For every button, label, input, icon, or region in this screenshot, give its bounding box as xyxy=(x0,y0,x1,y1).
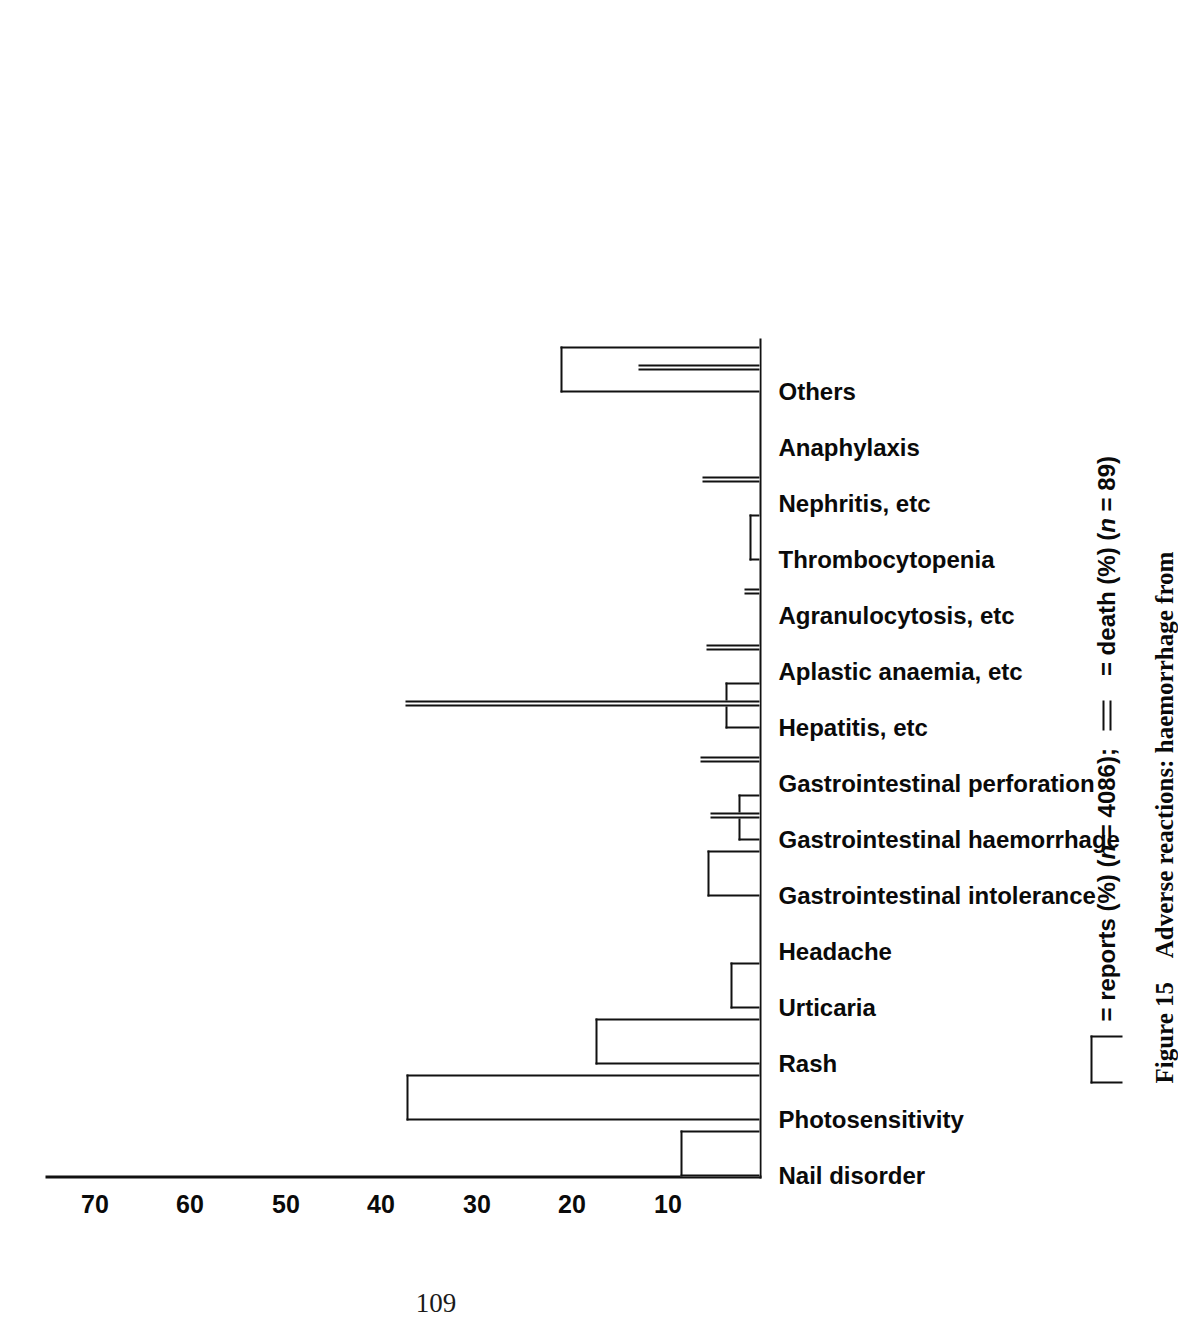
bar-slot xyxy=(45,896,759,952)
bar-slot xyxy=(45,672,759,728)
bar-slot xyxy=(45,784,759,840)
bar-slot xyxy=(45,1064,759,1120)
bar-death xyxy=(638,364,759,370)
category-label: Rash xyxy=(778,1049,837,1077)
bar-group xyxy=(45,338,759,1176)
value-tick-70: 70 xyxy=(80,1189,108,1218)
category-label: Nephritis, etc xyxy=(778,489,930,517)
category-label: Aplastic anaemia, etc xyxy=(778,657,1022,685)
bar-reports xyxy=(680,1130,759,1176)
legend-label-reports: = reports (%) (n = 4086); xyxy=(1092,748,1120,1021)
category-label: Nail disorder xyxy=(778,1161,925,1189)
category-label: Gastrointestinal perforation xyxy=(778,769,1094,797)
bar-death xyxy=(700,756,759,762)
bar-reports xyxy=(595,1018,759,1064)
figure-caption-text: Adverse reactions: haemorrhage from xyxy=(1150,551,1177,958)
value-tick-50: 50 xyxy=(271,1189,299,1218)
bar-slot xyxy=(45,728,759,784)
category-label: Gastrointestinal intolerance xyxy=(778,881,1095,909)
figure-caption-prefix: Figure 15 xyxy=(1150,981,1177,1083)
category-label: Urticaria xyxy=(778,993,875,1021)
category-label: Photosensitivity xyxy=(778,1105,963,1133)
value-tick-10: 10 xyxy=(653,1189,681,1218)
page-number: 109 xyxy=(0,1288,872,1319)
legend-label-death: = death (%) (n = 89) xyxy=(1092,456,1120,676)
legend-swatch-death-icon xyxy=(1102,700,1111,730)
bar-slot xyxy=(45,448,759,504)
value-tick-20: 20 xyxy=(557,1189,585,1218)
legend-swatch-reports-icon xyxy=(1090,1035,1122,1083)
category-label: Hepatitis, etc xyxy=(778,713,927,741)
bar-slot xyxy=(45,504,759,560)
category-label: Others xyxy=(778,377,855,405)
bar-slot xyxy=(45,1008,759,1064)
category-label: Thrombocytopenia xyxy=(778,545,994,573)
bar-reports xyxy=(730,962,759,1008)
value-tick-60: 60 xyxy=(176,1189,204,1218)
category-label: Anaphylaxis xyxy=(778,433,919,461)
bar-death xyxy=(710,812,759,818)
bar-reports xyxy=(749,514,760,560)
category-label: Gastrointestinal haemorrhage xyxy=(778,825,1119,853)
bar-slot xyxy=(45,840,759,896)
bar-slot xyxy=(45,616,759,672)
chart-legend: = reports (%) (n = 4086); = death (%) (n… xyxy=(1090,456,1122,1084)
bar-reports xyxy=(406,1074,759,1120)
bar-slot xyxy=(45,560,759,616)
bar-reports xyxy=(707,850,759,896)
bar-slot xyxy=(45,952,759,1008)
category-label: Agranulocytosis, etc xyxy=(778,601,1014,629)
bar-slot xyxy=(45,392,759,448)
plot-area: 10203040506070 xyxy=(45,338,761,1178)
bar-slot xyxy=(45,336,759,392)
bar-death xyxy=(744,588,759,594)
category-label: Headache xyxy=(778,937,891,965)
bar-death xyxy=(702,476,759,482)
bar-death xyxy=(706,644,759,650)
bar-death xyxy=(405,700,759,706)
category-labels: Nail disorderPhotosensitivityRashUrticar… xyxy=(770,338,1070,1178)
value-tick-30: 30 xyxy=(462,1189,490,1218)
value-tick-40: 40 xyxy=(367,1189,395,1218)
bar-slot xyxy=(45,1120,759,1176)
figure-caption: Figure 15 Adverse reactions: haemorrhage… xyxy=(1150,551,1178,1083)
